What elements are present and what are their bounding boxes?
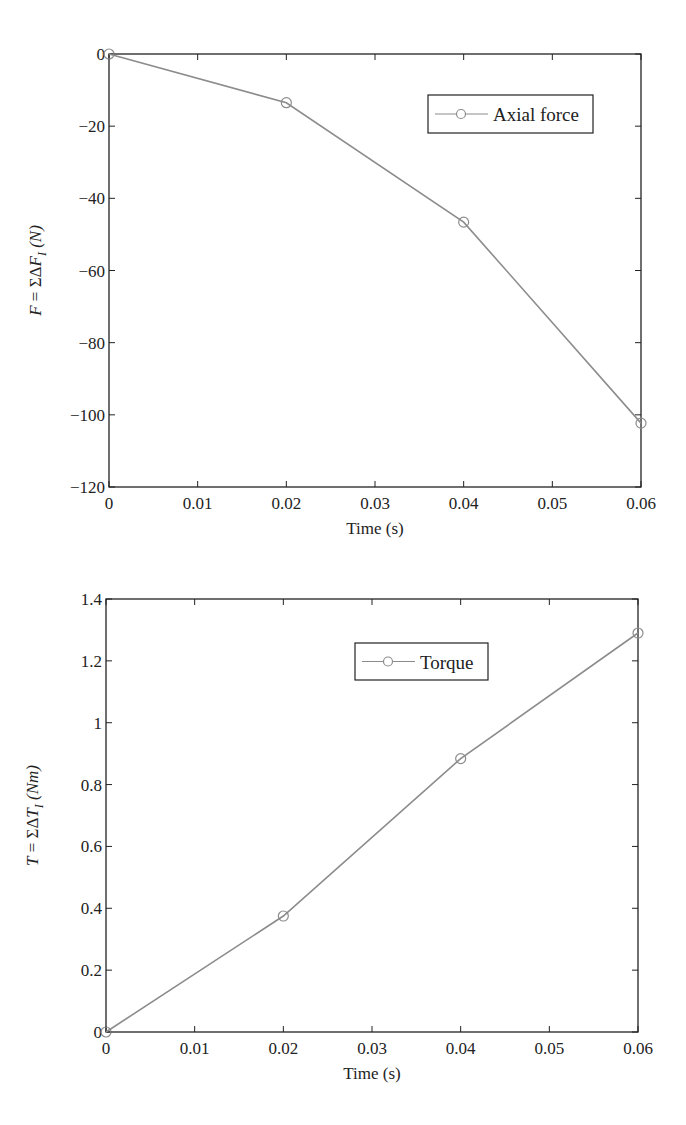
y-tick-label: −100 xyxy=(70,406,105,425)
y-axis-title: T = ΣΔTI (Nm) xyxy=(23,765,46,866)
y-tick-label: −60 xyxy=(78,262,105,281)
y-tick-label: 1.4 xyxy=(81,590,103,609)
torque-plot: 00.010.020.030.040.050.0600.20.40.60.811… xyxy=(0,560,686,1125)
y-tick-label: −120 xyxy=(70,478,105,497)
y-tick-label: −80 xyxy=(78,334,105,353)
x-tick-label: 0.03 xyxy=(360,494,390,513)
legend-label: Torque xyxy=(420,652,474,673)
x-axis-title: Time (s) xyxy=(346,519,403,538)
x-tick-label: 0.04 xyxy=(446,1039,476,1058)
y-tick-label: −40 xyxy=(78,189,105,208)
x-tick-label: 0.05 xyxy=(534,1039,564,1058)
y-tick-label: 0.8 xyxy=(81,776,102,795)
y-tick-label: 0.6 xyxy=(81,837,102,856)
x-tick-label: 0.02 xyxy=(271,494,301,513)
x-tick-label: 0 xyxy=(105,494,114,513)
y-tick-label: 0.4 xyxy=(81,899,103,918)
x-tick-label: 0.04 xyxy=(449,494,479,513)
x-tick-label: 0.05 xyxy=(537,494,567,513)
x-tick-label: 0.06 xyxy=(626,494,656,513)
y-tick-label: 1 xyxy=(94,714,103,733)
legend-circle-marker-icon xyxy=(457,110,466,119)
x-tick-label: 0.06 xyxy=(623,1039,653,1058)
y-tick-label: −20 xyxy=(78,117,105,136)
x-tick-label: 0 xyxy=(102,1039,111,1058)
legend: Axial force xyxy=(428,95,593,133)
y-tick-label: 0.2 xyxy=(81,961,102,980)
x-axis-title: Time (s) xyxy=(343,1064,400,1083)
x-tick-label: 0.01 xyxy=(180,1039,210,1058)
legend-label: Axial force xyxy=(493,104,579,125)
y-tick-label: 1.2 xyxy=(81,652,102,671)
legend-circle-marker-icon xyxy=(384,657,393,666)
torque-chart: 00.010.020.030.040.050.0600.20.40.60.811… xyxy=(0,560,686,1125)
series-line xyxy=(106,633,638,1032)
x-tick-label: 0.01 xyxy=(183,494,213,513)
axial-force-plot: 00.010.020.030.040.050.060−20−40−60−80−1… xyxy=(0,0,686,560)
legend: Torque xyxy=(355,643,488,680)
y-axis-title: F = ΣΔFI (N) xyxy=(26,225,49,317)
x-tick-label: 0.02 xyxy=(268,1039,298,1058)
axial-force-chart: 00.010.020.030.040.050.060−20−40−60−80−1… xyxy=(0,0,686,560)
x-tick-label: 0.03 xyxy=(357,1039,387,1058)
